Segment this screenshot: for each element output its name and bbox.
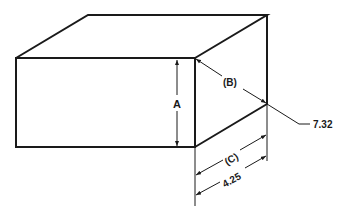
dimension-lines — [177, 59, 310, 206]
dimension-b-upper — [196, 59, 222, 76]
dimension-425-left — [196, 182, 220, 195]
label-c: (C) — [223, 151, 240, 167]
label-a: A — [173, 98, 181, 110]
label-4-25: 4.25 — [220, 170, 243, 189]
front-face — [16, 58, 195, 147]
dimension-c-left — [196, 160, 223, 175]
label-b: (B) — [223, 77, 237, 88]
top-face-edges — [16, 15, 267, 58]
dimension-b-lower — [243, 89, 266, 103]
dimension-c-right — [240, 135, 266, 150]
leader-line-7-32 — [267, 104, 310, 124]
box-diagram: A (B) 7.32 (C) 4.25 — [0, 0, 346, 216]
dimension-425-right — [245, 156, 266, 168]
label-7-32: 7.32 — [313, 119, 333, 130]
